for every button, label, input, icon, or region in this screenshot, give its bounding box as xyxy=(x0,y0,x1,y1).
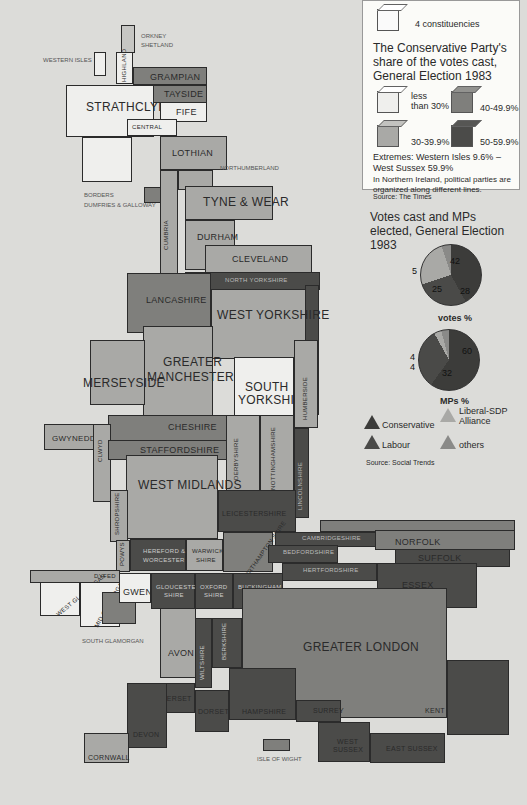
votes-alliance-value: 25 xyxy=(432,284,442,294)
wiltshire-label: WILTSHIRE xyxy=(199,645,205,680)
norfolk-label: NORFOLK xyxy=(395,537,441,547)
mps-others-value: 4 xyxy=(410,362,415,372)
kent-label: KENT xyxy=(425,707,445,714)
leicestershire-label: LEICESTERSHIRE xyxy=(222,510,287,517)
strathclyde-south xyxy=(82,137,132,182)
merseyside-region xyxy=(90,340,145,405)
humberside-label: HUMBERSIDE xyxy=(302,377,308,420)
highland-label: HIGHLAND xyxy=(121,49,127,82)
devon-label: DEVON xyxy=(133,731,159,738)
avon-region xyxy=(160,608,196,678)
cheshire-label: CHESHIRE xyxy=(168,422,217,432)
hereford-label-1: HEREFORD & xyxy=(143,548,185,554)
votes-caption: votes % xyxy=(438,313,472,323)
tayside-label: TAYSIDE xyxy=(164,89,203,99)
berkshire-label: BERKSHIRE xyxy=(221,623,227,660)
hertfordshire-label: HERTFORDSHIRE xyxy=(303,567,358,573)
class-30-label: 30-39.9% xyxy=(411,137,450,147)
votes-others-value: 5 xyxy=(412,266,417,276)
mps-labour-value: 32 xyxy=(442,368,452,378)
class-40-label: 40-49.9% xyxy=(480,103,519,113)
devon-region xyxy=(127,683,167,748)
key-others: others xyxy=(459,440,484,450)
west-yorkshire-region xyxy=(211,289,306,359)
votes-conservative-value: 42 xyxy=(450,256,460,266)
cornwall-label: CORNWALL xyxy=(88,754,130,761)
western-isles-region xyxy=(94,52,106,76)
shropshire-label: SHROPSHIRE xyxy=(114,492,120,535)
surrey-label: SURREY xyxy=(313,707,344,714)
alliance-cone-icon xyxy=(440,408,456,422)
suffolk-label: SUFFOLK xyxy=(418,553,462,563)
shetland-label: SHETLAND xyxy=(141,42,173,48)
nottinghamshire-region xyxy=(260,415,294,495)
tyne-wear-label: TYNE & WEAR xyxy=(203,195,289,209)
isle-of-wight-label: ISLE OF WIGHT xyxy=(257,756,302,762)
staffordshire-label: STAFFORDSHIRE xyxy=(140,445,219,455)
north-yorkshire-label: NORTH YORKSHIRE xyxy=(225,277,288,283)
legend-box: 4 constituencies The Conservative Party'… xyxy=(362,0,520,190)
hereford-worcester-region xyxy=(130,539,186,571)
orkney-label: ORKNEY xyxy=(141,33,166,39)
gloucester-label-2: SHIRE xyxy=(164,592,184,598)
durham-label: DURHAM xyxy=(197,232,238,242)
avon-label: AVON xyxy=(168,648,194,658)
dumfries-label: DUMFRIES & GALLOWAY xyxy=(84,202,156,208)
cleveland-label: CLEVELAND xyxy=(232,254,288,264)
warwick-label-1: WARWICK xyxy=(192,548,223,554)
legend-title: The Conservative Party's share of the vo… xyxy=(373,41,515,83)
dorset-label: DORSET xyxy=(198,708,229,715)
clwyd-label: CLWYD xyxy=(97,439,103,462)
cumbria-label: CUMBRIA xyxy=(163,220,169,250)
swatch-less-30-icon xyxy=(377,91,399,113)
west-sussex-label-2: SUSSEX xyxy=(333,746,363,753)
isle-of-wight-region xyxy=(263,739,290,751)
west-sussex-label-1: WEST xyxy=(337,738,358,745)
borders-label: BORDERS xyxy=(84,192,114,198)
west-midlands-region xyxy=(126,455,218,539)
lincolnshire-label: LINCOLNSHIRE xyxy=(297,462,303,510)
powys-label: POWYS xyxy=(119,542,125,566)
swatch-30-39-icon xyxy=(377,125,399,147)
gloucestershire-region xyxy=(151,573,195,609)
gwynedd-label: GWYNEDD xyxy=(52,434,96,443)
grampian-label: GRAMPIAN xyxy=(150,72,200,82)
others-cone-icon xyxy=(440,435,456,449)
labour-cone-icon xyxy=(364,435,380,449)
oxfordshire-region xyxy=(195,573,233,609)
western-isles-label: WESTERN ISLES xyxy=(43,57,92,63)
kent-region xyxy=(447,660,509,735)
merseyside-label: MERSEYSIDE xyxy=(83,376,165,390)
swatch-40-49-icon xyxy=(451,91,473,113)
class-50-label: 50-59.9% xyxy=(480,137,519,147)
mps-alliance-value: 4 xyxy=(410,352,415,362)
warwick-label-2: SHIRE xyxy=(196,557,216,563)
warwickshire-region xyxy=(186,539,223,571)
key-conservative: Conservative xyxy=(382,420,435,430)
hampshire-label: HAMPSHIRE xyxy=(242,708,286,715)
bedfordshire-label: BEDFORDSHIRE xyxy=(283,549,334,555)
constituency-cube-icon xyxy=(377,9,399,31)
extremes-text: Extremes: Western Isles 9.6% – West Suss… xyxy=(373,152,513,174)
west-yorkshire-label: WEST YORKSHIRE xyxy=(217,308,329,322)
pies-source: Source: Social Trends xyxy=(366,459,434,466)
south-glam-label: SOUTH GLAMORGAN xyxy=(82,638,144,644)
mps-caption: MPs % xyxy=(440,396,469,406)
northumberland-label: NORTHUMBERLAND xyxy=(220,165,279,171)
berkshire-region xyxy=(212,618,242,668)
key-labour: Labour xyxy=(382,440,410,450)
south-yorkshire-label-1: SOUTH xyxy=(245,380,289,394)
key-alliance: Liberal-SDP Alliance xyxy=(459,406,519,426)
mps-conservative-value: 60 xyxy=(462,346,472,356)
lancashire-label: LANCASHIRE xyxy=(146,295,207,305)
lothian-label: LOTHIAN xyxy=(172,148,213,158)
class-less-label: less xyxy=(411,91,427,101)
clwyd-region xyxy=(93,424,111,502)
swatch-50-59-icon xyxy=(451,125,473,147)
votes-labour-value: 28 xyxy=(460,286,470,296)
oxford-label-1: OXFORD xyxy=(200,584,227,590)
east-sussex-label: EAST SUSSEX xyxy=(386,745,438,752)
gloucester-label-1: GLOUCESTER xyxy=(156,584,200,590)
hereford-label-2: WORCESTER xyxy=(143,557,185,563)
greater-london-label: GREATER LONDON xyxy=(303,640,419,654)
